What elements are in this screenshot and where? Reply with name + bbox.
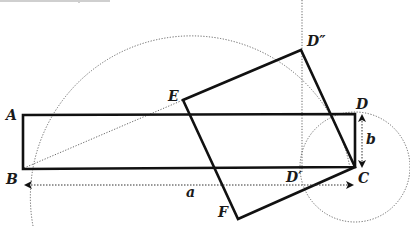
- label-d-prime: D′: [285, 169, 302, 185]
- label-side-b: b: [366, 131, 376, 147]
- label-d-double-prime: D″: [306, 33, 326, 49]
- square-ed2cf: [183, 50, 355, 219]
- label-a-vertex: A: [4, 107, 17, 123]
- label-b-vertex: B: [5, 171, 18, 187]
- cropped-caption-remnant: [0, 0, 110, 3]
- diagram-canvas: A B C D D″ D′ E F a b: [0, 0, 410, 230]
- label-d-vertex: D: [355, 96, 369, 112]
- rectangle-abcd: [23, 114, 355, 169]
- label-side-a: a: [186, 184, 195, 200]
- dimension-b: [358, 114, 366, 168]
- diagonal-b-to-e: [24, 100, 183, 168]
- label-e-vertex: E: [167, 88, 179, 104]
- label-c-vertex: C: [358, 170, 369, 186]
- label-f-vertex: F: [217, 204, 229, 220]
